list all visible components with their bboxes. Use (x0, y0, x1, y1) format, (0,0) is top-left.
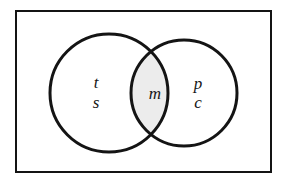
label-c: c (194, 93, 202, 112)
venn-diagram-canvas: t s m p c (0, 0, 288, 178)
label-p: p (193, 74, 203, 93)
label-m: m (149, 84, 161, 103)
label-s: s (93, 93, 100, 112)
venn-diagram-svg: t s m p c (0, 0, 288, 178)
